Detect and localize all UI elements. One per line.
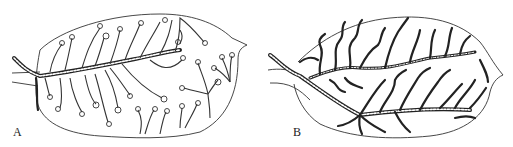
panel-label-a: A: [13, 125, 22, 140]
leaf-b-branches: [300, 18, 488, 134]
figure-illustration: [0, 0, 513, 147]
leaf-b-petiole: [268, 69, 310, 100]
panel-label-b: B: [293, 125, 301, 140]
leaf-a: [12, 14, 247, 138]
leaf-b: [268, 17, 503, 138]
leaf-b-main-vein-lower: [270, 55, 470, 115]
leaf-a-tendrils: [45, 18, 235, 135]
